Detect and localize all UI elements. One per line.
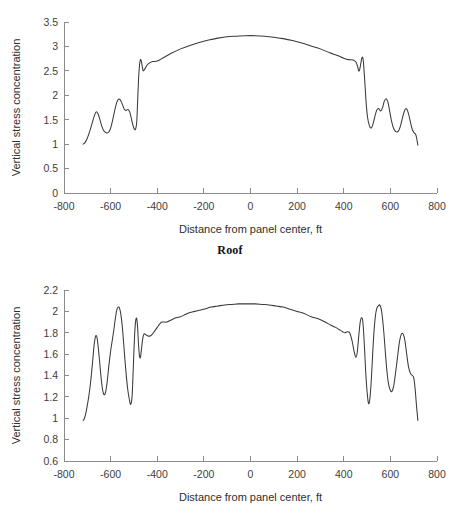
y-tick-label: 1.8 — [43, 327, 58, 339]
x-tick-label: -600 — [100, 468, 121, 480]
roof-caption: Roof — [0, 243, 460, 258]
x-tick-label: 400 — [335, 200, 353, 212]
y-tick-label: 1.2 — [43, 391, 58, 403]
roof-chart-svg: 00.511.522.533.5-800-600-400-20002004006… — [0, 0, 460, 243]
roof-chart-figure: 00.511.522.533.5-800-600-400-20002004006… — [0, 0, 460, 268]
x-tick-label: 0 — [248, 200, 254, 212]
x-tick-label: 200 — [288, 200, 306, 212]
y-tick-label: 0.6 — [43, 455, 58, 467]
x-axis-title: Distance from panel center, ft — [179, 223, 322, 235]
y-tick-label: 1 — [52, 138, 58, 150]
x-tick-label: -800 — [53, 468, 74, 480]
x-tick-label: -200 — [193, 468, 214, 480]
x-tick-label: 400 — [335, 468, 353, 480]
x-tick-label: -400 — [147, 200, 168, 212]
y-tick-label: 3.5 — [43, 16, 58, 28]
y-axis-title: Vertical stress concentration — [10, 39, 22, 177]
x-tick-label: 800 — [428, 468, 446, 480]
y-tick-label: 1.4 — [43, 369, 58, 381]
data-series-line — [83, 304, 418, 421]
y-tick-label: 1.6 — [43, 348, 58, 360]
y-axis-title: Vertical stress concentration — [10, 307, 22, 445]
x-tick-label: 600 — [382, 468, 400, 480]
y-tick-label: 2 — [52, 89, 58, 101]
x-axis-title: Distance from panel center, ft — [179, 491, 322, 503]
y-tick-label: 2.5 — [43, 65, 58, 77]
x-tick-label: -200 — [193, 200, 214, 212]
y-tick-label: 2.2 — [43, 284, 58, 296]
x-tick-label: -600 — [100, 200, 121, 212]
x-tick-label: 800 — [428, 200, 446, 212]
y-tick-label: 1 — [52, 412, 58, 424]
y-tick-label: 0.5 — [43, 162, 58, 174]
y-tick-label: 1.5 — [43, 114, 58, 126]
x-tick-label: 0 — [248, 468, 254, 480]
data-series-line — [83, 36, 418, 146]
y-tick-label: 0.8 — [43, 433, 58, 445]
y-tick-label: 3 — [52, 40, 58, 52]
x-tick-label: 200 — [288, 468, 306, 480]
x-tick-label: -400 — [147, 468, 168, 480]
y-tick-label: 0 — [52, 187, 58, 199]
floor-chart-svg: 0.60.811.21.41.61.822.2-800-600-400-2000… — [0, 268, 460, 511]
y-tick-label: 2 — [52, 305, 58, 317]
x-tick-label: -800 — [53, 200, 74, 212]
floor-chart-figure: 0.60.811.21.41.61.822.2-800-600-400-2000… — [0, 268, 460, 531]
x-tick-label: 600 — [382, 200, 400, 212]
